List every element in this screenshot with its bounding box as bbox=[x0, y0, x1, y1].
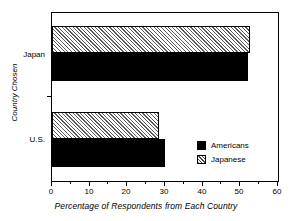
legend-item-americans: Americans bbox=[197, 139, 249, 151]
x-axis-ticklabel-30: 30 bbox=[152, 187, 176, 196]
bar-chart: Americans Japanese Japan U.S. 0 10 20 30… bbox=[0, 0, 292, 221]
x-axis-minor-tick-5 bbox=[70, 181, 71, 184]
x-axis-minor-tick-15 bbox=[107, 181, 108, 184]
x-axis-tick-30 bbox=[164, 181, 165, 186]
legend-swatch-americans-icon bbox=[197, 141, 206, 150]
y-axis-title: Country Chosen bbox=[10, 33, 19, 153]
x-axis-tick-0 bbox=[51, 181, 52, 186]
x-axis-ticklabel-40: 40 bbox=[190, 187, 214, 196]
x-axis-ticklabel-0: 0 bbox=[39, 187, 63, 196]
x-axis-tick-20 bbox=[126, 181, 127, 186]
y-axis-label-japan: Japan bbox=[23, 50, 45, 59]
y-axis-tick-midpoint bbox=[47, 96, 51, 97]
x-axis-tick-60 bbox=[277, 181, 278, 186]
plot-area: Americans Japanese bbox=[51, 12, 279, 182]
x-axis-ticklabel-10: 10 bbox=[77, 187, 101, 196]
bar-us-japanese bbox=[52, 112, 159, 139]
x-axis-minor-tick-45 bbox=[220, 181, 221, 184]
x-axis-tick-50 bbox=[239, 181, 240, 186]
legend-label-americans: Americans bbox=[211, 141, 249, 150]
x-axis-tick-10 bbox=[89, 181, 90, 186]
y-axis-label-us: U.S. bbox=[29, 135, 45, 144]
bar-us-americans bbox=[52, 139, 165, 167]
x-axis-title: Percentage of Respondents from Each Coun… bbox=[0, 201, 292, 211]
bar-japan-americans bbox=[52, 53, 248, 81]
x-axis-tick-40 bbox=[202, 181, 203, 186]
legend-item-japanese: Japanese bbox=[197, 153, 249, 165]
x-axis-minor-tick-25 bbox=[145, 181, 146, 184]
legend: Americans Japanese bbox=[197, 139, 249, 167]
x-axis-minor-tick-35 bbox=[183, 181, 184, 184]
x-axis-ticklabel-60: 60 bbox=[265, 187, 289, 196]
x-axis-ticklabel-50: 50 bbox=[227, 187, 251, 196]
x-axis-ticklabel-20: 20 bbox=[114, 187, 138, 196]
x-axis-minor-tick-55 bbox=[258, 181, 259, 184]
legend-swatch-japanese-icon bbox=[197, 155, 206, 164]
bar-japan-japanese bbox=[52, 26, 250, 53]
legend-label-japanese: Japanese bbox=[211, 155, 246, 164]
